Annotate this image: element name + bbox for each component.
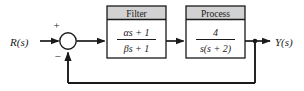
- process-numerator: 4: [213, 27, 218, 38]
- block-diagram-canvas: R(s) + − Filter αs + 1 βs + 1 Process 4 …: [0, 0, 304, 91]
- block-filter[interactable]: Filter αs + 1 βs + 1: [107, 6, 166, 58]
- filter-numerator: αs + 1: [124, 27, 150, 38]
- control-loop-diagram: R(s) + − Filter αs + 1 βs + 1 Process 4 …: [0, 0, 304, 91]
- summing-junction-minus-sign: −: [55, 50, 61, 62]
- output-signal-label: Y(s): [275, 36, 293, 49]
- block-process[interactable]: Process 4 s(s + 2): [186, 6, 245, 58]
- filter-denominator: βs + 1: [123, 43, 150, 54]
- summing-junction-plus-sign: +: [54, 19, 60, 31]
- process-denominator: s(s + 2): [200, 43, 232, 55]
- filter-block-title: Filter: [126, 9, 147, 19]
- process-block-title: Process: [201, 9, 230, 19]
- input-signal-label: R(s): [9, 36, 29, 49]
- summing-junction: [60, 33, 76, 49]
